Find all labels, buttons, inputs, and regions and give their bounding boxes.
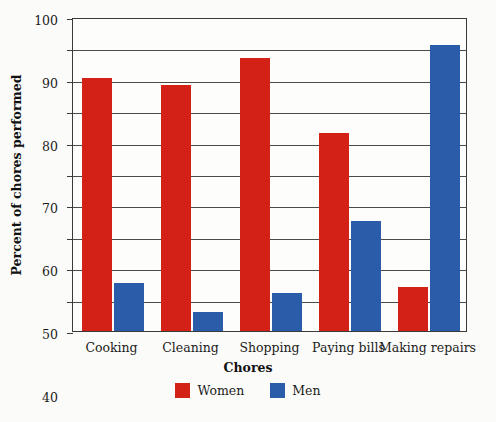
bar-men-making-repairs [430, 45, 460, 331]
bar-group [310, 19, 389, 331]
y-axis-tick-label: 100 [34, 13, 58, 28]
bar-men-cooking [114, 283, 144, 331]
bar-group [73, 19, 152, 331]
y-axis-tick-label: 60 [42, 264, 58, 279]
chart-legend: WomenMen [0, 383, 496, 398]
bar-men-paying-bills [351, 221, 381, 331]
legend-label: Women [197, 383, 244, 398]
bar-women-cleaning [161, 85, 191, 331]
bar-women-cooking [82, 78, 112, 331]
bar-group [389, 19, 468, 331]
bar-men-cleaning [193, 312, 223, 331]
bar-women-making-repairs [398, 287, 428, 331]
legend-item-men: Men [270, 383, 320, 398]
y-axis-title: Percent of chores performed [9, 75, 24, 276]
y-axis-tick-label: 50 [42, 327, 58, 342]
y-axis-tick-label: 90 [42, 75, 58, 90]
bar-chart-figure: 0102030405060708090100 Percent of chores… [0, 0, 496, 422]
x-axis-category-label: Cooking [85, 340, 137, 355]
bar-women-shopping [240, 58, 270, 331]
x-axis-category-label: Paying bills [312, 340, 385, 355]
x-axis-category-label: Cleaning [162, 340, 219, 355]
plot-area: 0102030405060708090100 [72, 18, 467, 332]
legend-swatch-women [175, 383, 190, 398]
y-axis-tick-label: 70 [42, 201, 58, 216]
x-axis-category-label: Making repairs [379, 340, 476, 355]
x-axis-category-label: Shopping [239, 340, 299, 355]
bar-group [152, 19, 231, 331]
x-axis-title: Chores [0, 360, 496, 375]
legend-item-women: Women [175, 383, 244, 398]
y-axis-tick-label: 80 [42, 138, 58, 153]
legend-label: Men [292, 383, 320, 398]
bar-men-shopping [272, 293, 302, 331]
legend-swatch-men [270, 383, 285, 398]
bar-group [231, 19, 310, 331]
y-axis-tick: 0 [67, 333, 73, 334]
bar-women-paying-bills [319, 133, 349, 331]
